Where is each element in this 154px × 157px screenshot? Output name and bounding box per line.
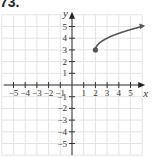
y-axis-label: y (62, 7, 68, 19)
y-tick-label: −2 (57, 103, 67, 113)
x-axis-label: x (142, 87, 148, 99)
x-tick-label: −2 (44, 88, 54, 98)
coordinate-plane: −5−4−3−2−11234554321−1−2−3−4−5xy (0, 0, 154, 157)
x-tick-label: 5 (128, 88, 133, 98)
y-tick-label: 1 (63, 68, 68, 78)
y-tick-label: −5 (57, 139, 67, 149)
y-tick-label: −4 (57, 127, 67, 137)
start-point-dot (93, 47, 98, 52)
y-tick-label: 3 (63, 45, 68, 55)
x-tick-label: 3 (105, 88, 110, 98)
y-tick-label: 2 (63, 57, 68, 67)
y-tick-label: 4 (63, 33, 68, 43)
x-tick-label: 2 (93, 88, 98, 98)
y-tick-label: 5 (63, 22, 68, 32)
y-tick-label: −1 (57, 92, 67, 102)
x-tick-label: 4 (117, 88, 122, 98)
x-tick-label: −5 (9, 88, 19, 98)
x-tick-label: −4 (20, 88, 30, 98)
x-tick-label: 1 (81, 88, 86, 98)
x-tick-label: −3 (32, 88, 42, 98)
y-tick-label: −3 (57, 115, 67, 125)
